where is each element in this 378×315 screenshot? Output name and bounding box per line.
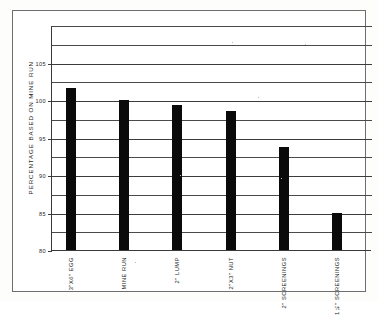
chart-outer-frame: PERCENTAGE BASED ON MINE RUN 80859095100… <box>12 10 366 292</box>
x-axis-tick-label: MINE RUN <box>121 257 127 290</box>
gridline <box>52 157 372 158</box>
y-axis-tick-label: 105 <box>35 61 46 67</box>
y-axis-title: PERCENTAGE BASED ON MINE RUN <box>27 61 34 194</box>
bar <box>172 105 182 250</box>
y-axis-tick-label: 95 <box>39 136 46 142</box>
y-axis-tick <box>48 101 52 102</box>
gridline <box>52 64 372 65</box>
scan-artifact <box>258 97 259 98</box>
bar <box>332 213 342 251</box>
x-axis-tick-label: 2" SCREENINGS <box>281 257 287 309</box>
y-axis-tick <box>48 251 52 252</box>
gridline <box>52 214 372 215</box>
plot-area: 808590951001053"X6" EGGMINE RUN2" LUMP2"… <box>51 26 371 251</box>
gridline <box>52 232 372 233</box>
bar <box>279 147 289 250</box>
gridline <box>52 82 372 83</box>
y-axis-tick <box>48 64 52 65</box>
y-axis-tick-label: 90 <box>39 173 46 179</box>
y-axis-tick <box>48 176 52 177</box>
gridline <box>52 176 372 177</box>
scan-artifact <box>180 175 181 176</box>
gridline <box>52 45 372 46</box>
x-axis-tick-label: 2"X3" NUT <box>228 257 234 289</box>
bar <box>119 100 129 250</box>
bar <box>226 111 236 250</box>
scan-artifact <box>305 44 306 45</box>
gridline <box>52 195 372 196</box>
scan-artifact <box>281 178 282 179</box>
x-axis-tick-label: 2" LUMP <box>174 257 180 283</box>
y-axis-tick <box>48 214 52 215</box>
y-axis-tick-label: 80 <box>39 248 46 254</box>
scan-artifact <box>135 262 136 263</box>
y-axis-tick-label: 85 <box>39 211 46 217</box>
gridline <box>52 101 372 102</box>
y-axis-tick <box>48 139 52 140</box>
x-axis-tick-label: 3"X6" EGG <box>68 257 74 290</box>
bar <box>66 88 76 250</box>
scan-artifact <box>232 42 233 43</box>
gridline <box>52 139 372 140</box>
gridline <box>52 26 372 27</box>
gridline <box>52 120 372 121</box>
x-axis-tick-label: 1¼" SCREENINGS <box>334 257 340 315</box>
y-axis-tick-label: 100 <box>35 98 46 104</box>
